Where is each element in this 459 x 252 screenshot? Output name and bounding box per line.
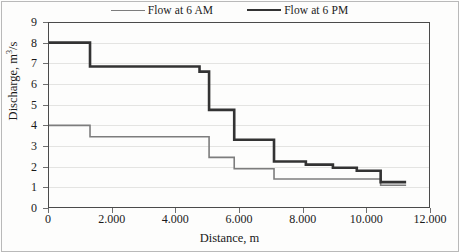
x-tick-mark [303,208,304,213]
x-tick-mark [239,208,240,213]
x-tick-label: 4.000 [147,213,203,225]
x-tick-mark [175,208,176,213]
x-tick-mark [48,208,49,213]
x-tick-mark [430,208,431,213]
chart-figure: Flow at 6 AM Flow at 6 PM 0123456789 Dis… [0,0,459,252]
plot-frame [48,22,430,208]
x-tick-label: 8.000 [275,213,331,225]
x-tick-mark [112,208,113,213]
x-tick-mark [366,208,367,213]
x-tick-label: 6.000 [211,213,267,225]
plot-area [48,22,430,208]
x-tick-label: 0 [20,213,76,225]
x-tick-label: 10.000 [338,213,394,225]
x-tick-label: 12.000 [402,213,458,225]
x-axis-title: Distance, m [0,231,459,245]
x-tick-label: 2.000 [84,213,140,225]
